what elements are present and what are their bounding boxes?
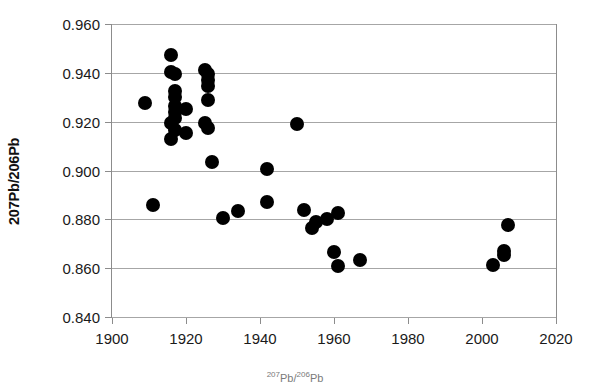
data-point — [205, 155, 219, 169]
data-point — [353, 253, 367, 267]
data-point — [216, 211, 230, 225]
data-point — [297, 203, 311, 217]
x-tick-mark — [112, 318, 113, 324]
x-tick-label: 1960 — [299, 330, 369, 347]
y-tick-label: 0.960 — [38, 16, 100, 33]
y-tick-label: 0.880 — [38, 211, 100, 228]
figure-caption: 207Pb/206Pb — [0, 370, 590, 384]
x-tick-mark — [186, 318, 187, 324]
y-axis-label: 207Pb/206Pb — [2, 96, 26, 266]
y-tick-label: 0.840 — [38, 309, 100, 326]
x-tick-mark — [556, 318, 557, 324]
x-tick-mark — [260, 318, 261, 324]
data-point — [138, 96, 152, 110]
x-tick-mark — [334, 318, 335, 324]
x-tick-label: 1920 — [151, 330, 221, 347]
data-point — [164, 48, 178, 62]
data-point — [201, 79, 215, 93]
data-point — [201, 93, 215, 107]
data-point — [179, 102, 193, 116]
y-tick-label: 0.920 — [38, 113, 100, 130]
gridline — [112, 24, 556, 25]
x-tick-label: 1940 — [225, 330, 295, 347]
x-tick-label: 1980 — [373, 330, 443, 347]
data-point — [164, 132, 178, 146]
data-point — [331, 206, 345, 220]
gridline — [112, 171, 556, 172]
plot-area — [112, 24, 556, 317]
y-tick-label: 0.940 — [38, 64, 100, 81]
gridline — [112, 219, 556, 220]
x-tick-label: 1900 — [77, 330, 147, 347]
x-tick-mark — [408, 318, 409, 324]
data-point — [501, 218, 515, 232]
data-point — [231, 204, 245, 218]
data-point — [201, 121, 215, 135]
y-tick-label: 0.900 — [38, 162, 100, 179]
data-point — [168, 67, 182, 81]
data-point — [179, 126, 193, 140]
x-tick-label: 2000 — [447, 330, 517, 347]
y-tick-label: 0.860 — [38, 260, 100, 277]
x-tick-mark — [482, 318, 483, 324]
data-point — [146, 198, 160, 212]
data-point — [260, 162, 274, 176]
data-point — [331, 259, 345, 273]
data-point — [327, 245, 341, 259]
scatter-chart: 207Pb/206Pb 0.8400.8600.8800.9000.9200.9… — [0, 0, 590, 386]
gridline — [112, 317, 556, 318]
data-point — [260, 195, 274, 209]
x-tick-label: 2020 — [521, 330, 590, 347]
data-point — [290, 117, 304, 131]
plot-right-border — [556, 24, 557, 318]
